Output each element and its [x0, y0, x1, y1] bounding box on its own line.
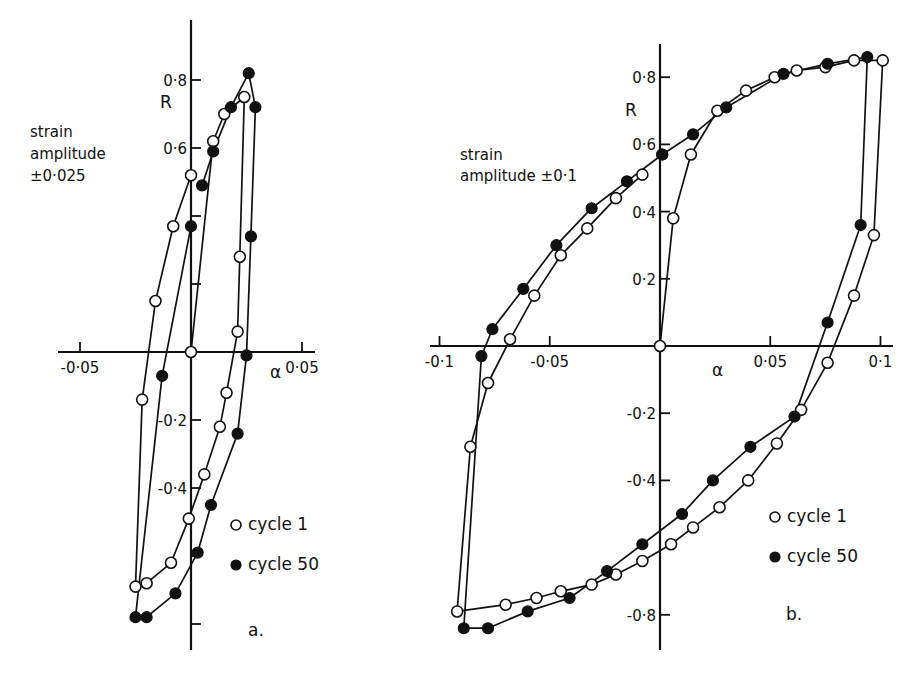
x-tick-label: 0·05 [285, 359, 318, 377]
data-point-open-icon [183, 513, 194, 524]
legend-label: cycle 1 [787, 506, 847, 526]
strain-amplitude-annotation: ±0·025 [30, 167, 86, 185]
data-point-open-icon [655, 341, 666, 352]
data-point-open-icon [500, 599, 511, 610]
data-point-filled-icon [637, 539, 648, 550]
data-point-filled-icon [657, 149, 668, 160]
data-point-filled-icon [586, 203, 597, 214]
data-point-filled-icon [170, 588, 181, 599]
data-point-open-icon [610, 193, 621, 204]
data-point-open-icon [637, 556, 648, 567]
strain-amplitude-annotation: amplitude [30, 145, 106, 163]
data-point-open-icon [239, 92, 250, 103]
chart-panel-b: -0·1-0·050·050·10·80·60·40·2-0·2-0·4-0·8… [425, 44, 893, 650]
data-point-open-icon [483, 377, 494, 388]
data-point-open-icon [771, 438, 782, 449]
x-tick-label: -0·05 [61, 359, 100, 377]
y-tick-label: -0·4 [158, 480, 187, 498]
data-point-filled-icon [721, 102, 732, 113]
data-point-filled-icon [141, 612, 152, 623]
data-point-open-icon [668, 213, 679, 224]
strain-amplitude-annotation: strain [30, 123, 73, 141]
x-tick-label: -0·1 [425, 353, 454, 371]
chart-panel-a: -0·050·050·80·6-0·2-0·4αRstrainamplitude… [30, 20, 319, 650]
data-point-open-icon [822, 357, 833, 368]
data-point-open-icon [877, 55, 888, 66]
data-point-open-icon [586, 579, 597, 590]
y-axis-label: R [160, 92, 172, 112]
data-point-filled-icon [688, 129, 699, 140]
data-point-open-icon [529, 290, 540, 301]
x-tick-label: 0·05 [754, 353, 787, 371]
data-point-filled-icon [862, 52, 873, 63]
y-tick-label: 0·4 [632, 204, 656, 222]
data-point-filled-icon [130, 612, 141, 623]
data-point-open-icon [166, 557, 177, 568]
data-point-filled-icon [192, 547, 203, 558]
strain-amplitude-annotation: amplitude ±0·1 [460, 167, 577, 185]
y-tick-label: 0·8 [163, 72, 187, 90]
x-tick-label: -0·05 [530, 353, 569, 371]
x-axis-label: α [712, 360, 723, 380]
data-point-filled-icon [205, 500, 216, 511]
data-point-filled-icon [778, 68, 789, 79]
data-point-open-icon [234, 251, 245, 262]
data-point-open-icon [791, 65, 802, 76]
data-point-filled-icon [243, 68, 254, 79]
y-tick-label: 0·2 [632, 271, 656, 289]
data-point-open-icon [740, 85, 751, 96]
data-point-open-icon [582, 223, 593, 234]
data-point-filled-icon [745, 441, 756, 452]
data-point-filled-icon [225, 102, 236, 113]
data-point-filled-icon [250, 102, 261, 113]
strain-amplitude-annotation: strain [460, 146, 503, 164]
data-point-open-icon [208, 136, 219, 147]
series-line-cycle-50 [136, 73, 256, 617]
data-point-open-icon [199, 469, 210, 480]
data-point-filled-icon [157, 370, 168, 381]
data-point-open-icon [666, 539, 677, 550]
data-point-filled-icon [483, 623, 494, 634]
data-point-filled-icon [621, 176, 632, 187]
series-line-cycle-1 [457, 60, 883, 611]
data-point-open-icon [743, 475, 754, 486]
data-point-filled-icon [602, 566, 613, 577]
data-point-filled-icon [551, 240, 562, 251]
data-point-open-icon [465, 441, 476, 452]
data-point-open-icon [452, 606, 463, 617]
legend-filled-circle-icon [231, 560, 241, 570]
data-point-filled-icon [476, 351, 487, 362]
data-point-filled-icon [208, 146, 219, 157]
data-point-filled-icon [241, 350, 252, 361]
x-tick-label: 0·1 [869, 353, 893, 371]
data-point-open-icon [168, 221, 179, 232]
data-point-open-icon [688, 522, 699, 533]
data-point-filled-icon [677, 509, 688, 520]
data-point-filled-icon [522, 606, 533, 617]
data-point-filled-icon [197, 180, 208, 191]
y-tick-label: -0·2 [627, 405, 656, 423]
panel-label: b. [786, 604, 802, 624]
legend-label: cycle 1 [248, 514, 308, 534]
hysteresis-figure: -0·050·050·80·6-0·2-0·4αRstrainamplitude… [0, 0, 921, 678]
legend-filled-circle-icon [770, 552, 780, 562]
data-point-open-icon [685, 149, 696, 160]
legend-open-circle-icon [231, 520, 241, 530]
data-point-filled-icon [707, 475, 718, 486]
legend-label: cycle 50 [787, 546, 858, 566]
data-point-open-icon [849, 55, 860, 66]
data-point-open-icon [137, 394, 148, 405]
data-point-open-icon [714, 502, 725, 513]
data-point-filled-icon [458, 623, 469, 634]
data-point-filled-icon [564, 593, 575, 604]
data-point-filled-icon [789, 411, 800, 422]
data-point-open-icon [214, 421, 225, 432]
data-point-filled-icon [245, 231, 256, 242]
data-point-filled-icon [855, 220, 866, 231]
data-point-open-icon [637, 169, 648, 180]
data-point-filled-icon [518, 283, 529, 294]
data-point-filled-icon [186, 221, 197, 232]
x-axis-label: α [270, 362, 281, 382]
y-tick-label: 0·6 [632, 136, 656, 154]
y-tick-label: -0·2 [158, 412, 187, 430]
